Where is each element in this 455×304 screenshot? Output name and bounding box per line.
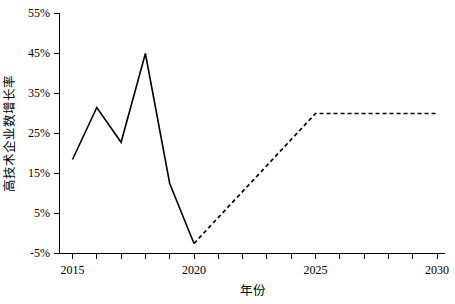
y-tick-label-5: 5% (34, 206, 50, 220)
y-tick-label-25: 25% (28, 126, 50, 140)
y-axis: 55% 45% 35% 25% 15% 5% -5% 高技术企业数增长率 (2, 6, 60, 260)
chart-container: 55% 45% 35% 25% 15% 5% -5% 高技术企业数增长率 (0, 0, 455, 304)
y-tick-label-45: 45% (28, 46, 50, 60)
y-tick-labels: 55% 45% 35% 25% 15% 5% -5% (28, 6, 50, 260)
y-tick-label-15: 15% (28, 166, 50, 180)
series-forecast-line (194, 114, 437, 244)
x-tick-label-2025: 2025 (304, 263, 328, 277)
y-axis-ticks (54, 14, 60, 254)
y-axis-title: 高技术企业数增长率 (2, 75, 17, 192)
x-axis: 2015 2020 2025 2030 年份 (60, 254, 450, 299)
x-axis-ticks (73, 254, 438, 260)
line-chart: 55% 45% 35% 25% 15% 5% -5% 高技术企业数增长率 (0, 0, 455, 304)
x-tick-label-2030: 2030 (425, 263, 449, 277)
x-tick-label-2020: 2020 (182, 263, 206, 277)
y-tick-label--5: -5% (30, 246, 50, 260)
x-tick-label-2015: 2015 (61, 263, 85, 277)
series-historical-line (73, 54, 195, 244)
y-tick-label-55: 55% (28, 6, 50, 20)
x-axis-title: 年份 (240, 284, 266, 298)
x-tick-labels: 2015 2020 2025 2030 (61, 263, 450, 277)
y-tick-label-35: 35% (28, 86, 50, 100)
data-series-group (73, 54, 438, 244)
